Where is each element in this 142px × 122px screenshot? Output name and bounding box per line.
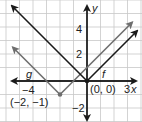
coordinate-graph: y x 4 2 −2 −4 3 g f (0, 0) (−2, −1) (0, 0, 142, 122)
tick-label-neg4: −4 (22, 84, 35, 96)
graph-f-left (12, 6, 87, 81)
graph-svg: y x 4 2 −2 −4 3 g f (0, 0) (−2, −1) (0, 0, 142, 122)
tick-label-4: 4 (76, 23, 82, 35)
y-axis-label: y (91, 2, 99, 14)
graph-g-left (13, 48, 60, 95)
tick-label-2: 2 (76, 48, 82, 60)
vertex-g-point (58, 92, 63, 97)
vertex-f-label: (0, 0) (90, 83, 116, 95)
vertex-g-label: (−2, −1) (10, 96, 49, 108)
x-axis-label: x (130, 83, 137, 95)
label-f: f (102, 68, 106, 80)
tick-label-neg2: −2 (72, 102, 85, 114)
label-g: g (26, 68, 33, 80)
vertex-f-point (85, 79, 90, 84)
tick-label-3: 3 (124, 83, 130, 95)
graph-f-right (87, 31, 137, 81)
